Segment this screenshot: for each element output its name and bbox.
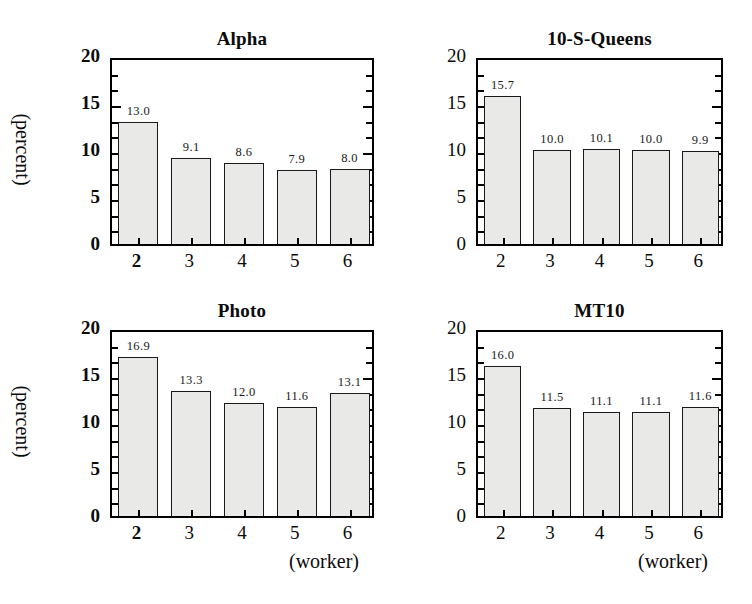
y-axis-tick-label: 10 [52,411,100,433]
bar-slot: 10.0 [533,56,571,244]
y-axis-tick-label: 15 [52,364,100,386]
plot-area-4: 16.011.511.111.111.6 [476,330,723,518]
bar-value-label: 7.9 [288,152,305,167]
x-tick [602,238,604,244]
bar-2[interactable] [118,357,158,516]
x-axis-tick-label: 4 [216,522,269,544]
bar-3[interactable] [533,150,571,244]
bar-3[interactable] [171,391,211,516]
bar-5[interactable] [277,170,317,244]
bar-slot: 13.3 [171,328,211,516]
y-axis-tick-label: 15 [418,92,466,114]
bar-5[interactable] [277,407,317,516]
bar-value-label: 10.0 [639,132,662,147]
y-axis-tick-label: 20 [418,317,466,339]
bar-value-label: 13.3 [179,373,202,388]
bar-value-label: 10.0 [540,132,563,147]
panel-title-3: Photo [110,300,374,322]
y-tick-minor [112,441,118,443]
bar-slot: 15.7 [484,56,522,244]
bar-5[interactable] [632,150,670,244]
panel-title-4: MT10 [476,300,723,322]
bar-6[interactable] [330,393,370,516]
y-tick-minor [112,122,118,124]
y-tick-minor [112,488,118,490]
y-axis-tick-label: 5 [52,458,100,480]
x-tick [138,510,140,516]
bar-value-label: 16.9 [127,339,150,354]
y-tick-minor [112,231,118,233]
bar-2[interactable] [118,122,158,244]
bar-6[interactable] [682,151,720,244]
bar-5[interactable] [632,412,670,516]
y-tick-minor [112,347,118,349]
y-tick-minor [112,184,118,186]
x-axis-tick-label: 5 [268,522,321,544]
y-axis-tick-label: 10 [418,139,466,161]
y-axis-tick-label: 0 [418,505,466,527]
bar-slot: 12.0 [224,328,264,516]
x-tick [700,510,702,516]
x-tick [552,238,554,244]
bar-value-label: 13.0 [127,104,150,119]
x-tick [297,510,299,516]
bar-slot: 16.0 [484,328,522,516]
bar-4[interactable] [583,149,621,244]
y-tick-minor [112,137,118,139]
bar-2[interactable] [484,366,522,516]
x-axis-tick-label: 3 [525,522,574,544]
bar-slot: 11.6 [277,328,317,516]
x-axis-tick-label: 6 [321,522,374,544]
bar-slot: 11.1 [632,328,670,516]
bar-value-label: 11.6 [285,389,308,404]
x-axis-tick-label: 3 [525,250,574,272]
x-tick [297,238,299,244]
x-axis-tick-label: 4 [575,522,624,544]
y-tick-minor [112,503,118,505]
bar-slot: 13.0 [118,56,158,244]
bar-value-label: 15.7 [491,78,514,93]
x-axis-tick-label: 3 [163,250,216,272]
x-tick [700,238,702,244]
bar-value-label: 9.9 [692,133,709,148]
x-axis-tick-label: 2 [476,250,525,272]
y-axis-tick-label: 15 [52,92,100,114]
x-tick [503,238,505,244]
y-tick-minor [112,90,118,92]
y-axis-tick-label: 5 [418,458,466,480]
bar-3[interactable] [171,158,211,244]
y-tick-minor [112,75,118,77]
bar-4[interactable] [224,163,264,244]
y-axis-tick-label: 10 [418,411,466,433]
y-axis-tick-label: 0 [418,233,466,255]
x-tick [552,510,554,516]
x-axis-tick-label: 5 [268,250,321,272]
bar-slot: 11.5 [533,328,571,516]
y-axis-tick-label: 0 [52,233,100,255]
x-axis-tick-label: 2 [110,522,163,544]
bar-slot: 16.9 [118,328,158,516]
x-axis-tick-label: 6 [674,250,723,272]
bar-value-label: 11.1 [590,394,613,409]
bar-slot: 8.6 [224,56,264,244]
bar-6[interactable] [330,169,370,244]
bar-3[interactable] [533,408,571,516]
bar-value-label: 10.1 [590,131,613,146]
y-axis-tick-label: 0 [52,505,100,527]
plot-area-2: 15.710.010.110.09.9 [476,58,723,246]
bar-value-label: 8.6 [236,145,253,160]
bar-6[interactable] [682,407,720,516]
x-axis-tick-label: 5 [624,522,673,544]
bar-4[interactable] [583,412,621,516]
x-axis-tick-label: 5 [624,250,673,272]
bar-2[interactable] [484,96,522,244]
bar-value-label: 8.0 [341,151,358,166]
x-axis-title: (worker) [289,550,359,573]
x-tick [350,238,352,244]
bar-value-label: 12.0 [232,385,255,400]
y-axis-title: (percent) [11,362,34,482]
bar-4[interactable] [224,403,264,516]
x-tick [138,238,140,244]
y-axis-tick-label: 15 [418,364,466,386]
figure-canvas: Alpha13.09.18.67.98.00510152023456(perce… [0,0,752,604]
